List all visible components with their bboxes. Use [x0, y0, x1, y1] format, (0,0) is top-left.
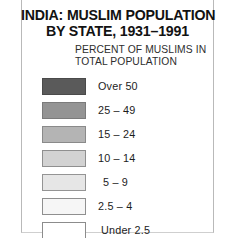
legend-color-swatch [42, 198, 86, 215]
page-title-line-1: INDIA: MUSLIM POPULATION [21, 7, 214, 23]
legend-row[interactable]: Under 2.5 [42, 218, 207, 238]
legend-color-swatch [42, 78, 86, 95]
legend-row[interactable]: Over 50 [42, 74, 207, 98]
legend-color-swatch [42, 102, 86, 119]
page-title-line-2: BY STATE, 1931–1991 [21, 23, 214, 39]
legend-class-list: Over 5025 – 4915 – 2410 – 145 – 92.5 – 4… [42, 74, 207, 238]
legend-color-swatch [42, 126, 86, 143]
legend-color-swatch [42, 174, 86, 191]
legend-row[interactable]: 25 – 49 [42, 98, 207, 122]
legend-range-label: 10 – 14 [98, 152, 135, 164]
legend-subtitle-block: PERCENT OF MUSLIMS IN TOTAL POPULATION [75, 44, 206, 68]
legend-row[interactable]: 15 – 24 [42, 122, 207, 146]
legend-row[interactable]: 10 – 14 [42, 146, 207, 170]
legend-title-block: INDIA: MUSLIM POPULATION BY STATE, 1931–… [21, 7, 214, 39]
legend-color-swatch [42, 222, 86, 239]
legend-range-label: 25 – 49 [98, 104, 135, 116]
legend-range-label: 2.5 – 4 [98, 200, 132, 212]
legend-range-label: 5 – 9 [103, 176, 128, 188]
legend-range-label: Under 2.5 [101, 224, 150, 236]
legend-row[interactable]: 5 – 9 [42, 170, 207, 194]
legend-subtitle-line-2: TOTAL POPULATION [75, 56, 206, 68]
legend-color-swatch [42, 150, 86, 167]
legend-range-label: Over 50 [98, 80, 138, 92]
legend-row[interactable]: 2.5 – 4 [42, 194, 207, 218]
legend-range-label: 15 – 24 [98, 128, 135, 140]
legend-subtitle-line-1: PERCENT OF MUSLIMS IN [75, 44, 206, 56]
